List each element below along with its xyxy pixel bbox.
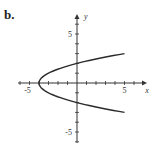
y-tick-label-5: 5 (68, 30, 72, 39)
axes (18, 14, 147, 143)
y-axis-arrow-icon (75, 14, 80, 19)
x-tick-label-neg5: -5 (24, 86, 31, 95)
axis-labels: -555-5xy (24, 12, 149, 137)
x-axis-arrow-icon (142, 81, 147, 86)
x-tick-label-5: 5 (123, 86, 127, 95)
x-axis-label: x (144, 86, 149, 95)
chart-plot-area: -555-5xy (0, 0, 152, 149)
y-tick-label-neg5: -5 (65, 128, 72, 137)
y-axis-label: y (83, 12, 88, 21)
